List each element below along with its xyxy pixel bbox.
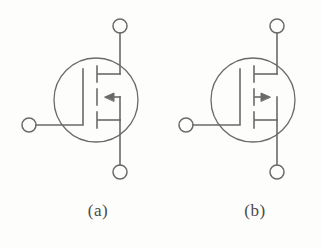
symbol-label-a: (a) — [68, 201, 128, 221]
symbol-label-b: (b) — [225, 201, 285, 221]
substrate-arrow-right-icon — [261, 93, 270, 101]
gate-terminal[interactable] — [22, 118, 36, 132]
substrate-arrow-left-icon — [105, 93, 114, 101]
source-terminal[interactable] — [113, 165, 127, 179]
device-envelope-circle — [54, 58, 138, 142]
source-terminal[interactable] — [270, 165, 284, 179]
mosfet-symbol-b — [179, 19, 295, 179]
drain-terminal[interactable] — [270, 19, 284, 33]
gate-lead — [36, 69, 83, 125]
device-envelope-circle — [211, 58, 295, 142]
gate-terminal[interactable] — [179, 118, 193, 132]
gate-lead — [193, 69, 240, 125]
drain-terminal[interactable] — [113, 19, 127, 33]
mosfet-symbol-a — [22, 19, 138, 179]
